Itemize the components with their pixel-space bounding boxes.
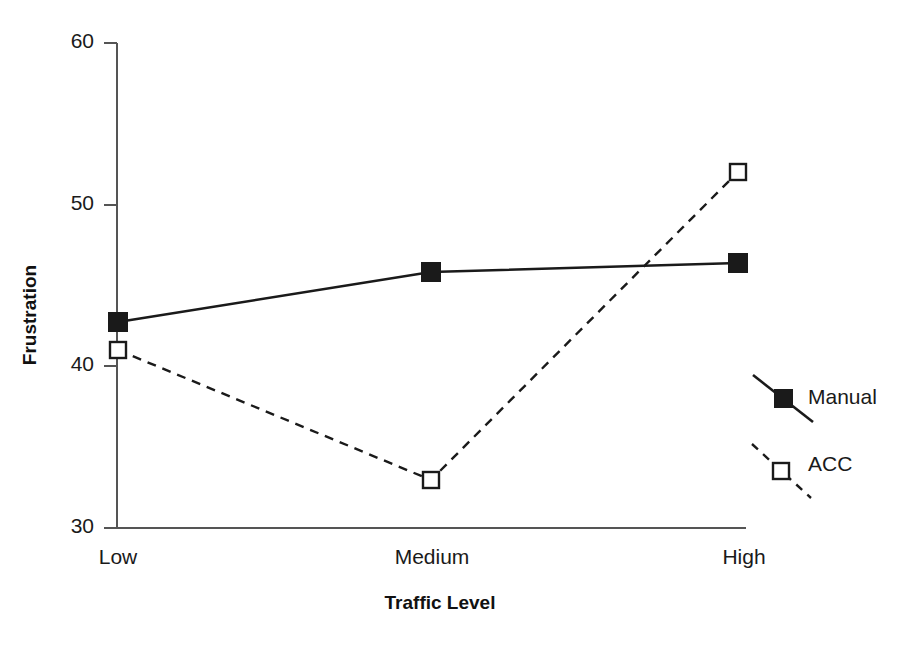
data-point-manual-low bbox=[109, 313, 127, 331]
x-tick-label-low: Low bbox=[38, 545, 198, 569]
x-axis-title: Traffic Level bbox=[360, 592, 520, 614]
data-point-acc-high bbox=[730, 164, 746, 180]
data-point-manual-medium bbox=[422, 263, 440, 281]
legend-marker-acc-open-square-icon bbox=[773, 463, 789, 479]
y-tick-label-30: 30 bbox=[24, 514, 94, 538]
y-axis-title-wrapper: Frustration bbox=[0, 230, 60, 410]
y-tick-label-60: 60 bbox=[24, 29, 94, 53]
legend-marker-manual-filled-square-icon bbox=[775, 390, 792, 407]
legend-label-acc: ACC bbox=[808, 452, 852, 476]
data-point-acc-medium bbox=[423, 472, 439, 488]
x-tick-label-medium: Medium bbox=[352, 545, 512, 569]
series-line-acc bbox=[118, 172, 738, 480]
line-chart: 60 50 40 30 Low Medium High Frustration … bbox=[0, 0, 902, 651]
y-axis-title: Frustration bbox=[19, 245, 41, 385]
y-tick-label-50: 50 bbox=[24, 191, 94, 215]
data-point-acc-low bbox=[110, 342, 126, 358]
data-point-manual-high bbox=[729, 254, 747, 272]
x-tick-label-high: High bbox=[664, 545, 824, 569]
legend-label-manual: Manual bbox=[808, 385, 877, 409]
